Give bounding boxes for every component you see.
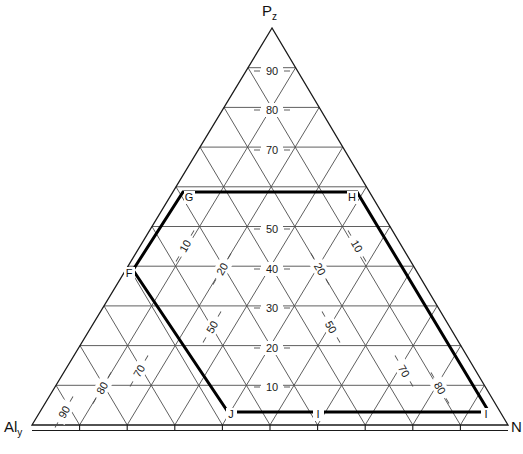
tick-dash [108,372,111,377]
tick-dash [191,230,194,235]
tick-dash [395,355,398,360]
grid-line-right [175,147,343,425]
tick-marks-layer [32,425,508,431]
left-tick-label: 50 [197,308,227,346]
tick-dash [326,279,329,284]
vertex-label-F: F [126,267,133,279]
right-tick-label: 50 [316,308,346,346]
tick-dash [363,256,366,261]
vertex-label-G: G [185,191,194,203]
tick-dash [218,311,221,316]
center-tick-label: 10 [266,381,278,393]
tick-dash [410,381,413,386]
center-tick-label: 40 [266,263,278,275]
ternary-diagram-figure: 90807050403020101020507080901020507080 G… [0,0,523,454]
center-tick-label: 90 [266,65,278,77]
vertex-label-J: J [228,408,234,420]
vertex-label-I-mid: I [316,408,319,420]
vertex-label-I-right: I [484,408,487,420]
tick-dash [203,337,206,342]
apex-label-top: Pz [262,2,277,22]
right-tick-label: 70 [389,352,419,390]
tick-dash [228,253,231,258]
tick-dash [322,311,325,316]
vertex-label-H: H [348,191,356,203]
apex-label-bottom-left: Aly [4,418,22,438]
tick-dash [145,355,148,360]
apex-subscript: y [17,427,22,438]
apex-base: N [511,418,522,435]
center-tick-label: 30 [266,302,278,314]
apex-label-bottom-right: N [511,418,522,435]
left-tick-label: 80 [87,369,117,407]
right-tick-label: 80 [425,369,455,407]
center-tick-label: 70 [266,144,278,156]
apex-subscript: z [272,11,277,22]
left-tick-label: 70 [124,352,154,390]
tick-dash [311,253,314,258]
tick-dash [70,396,73,401]
apex-base: P [262,2,272,19]
grid-layer [56,68,484,425]
center-tick-label: 20 [266,342,278,354]
ternary-plot-svg: 90807050403020101020507080901020507080 G… [0,0,523,454]
right-tick-label: 20 [305,250,335,288]
tick-dash [337,337,340,342]
tick-dash [348,230,351,235]
tick-dash [130,381,133,386]
tick-dash [93,398,96,403]
grid-line-right [460,385,484,425]
center-tick-label: 50 [266,223,278,235]
apex-base: Al [4,418,17,435]
center-tick-label: 80 [266,104,278,116]
